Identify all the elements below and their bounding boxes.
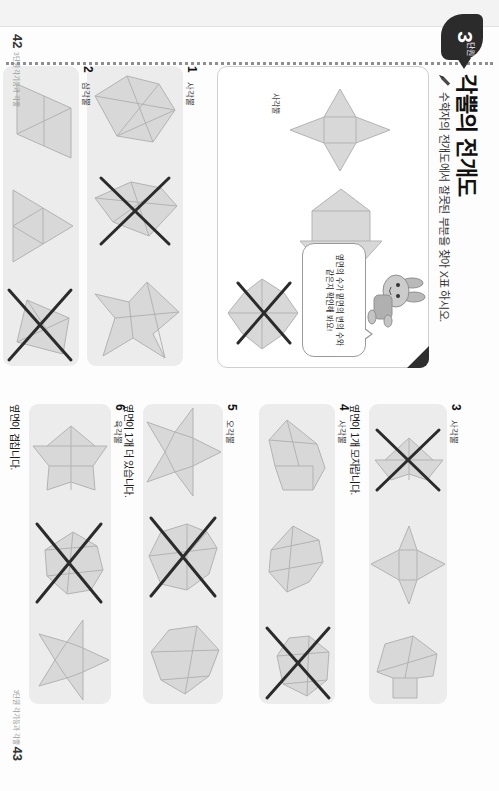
problem-1-label: 사각뿔 [185, 82, 197, 106]
problem-6-net-c [39, 620, 109, 700]
problem-4-strip [259, 404, 335, 704]
problem-4-net-b [269, 526, 323, 592]
problem-1-net-b [95, 178, 177, 244]
example-box: 사각뿔 옆면이 1개 모자랍니다. [217, 66, 429, 368]
problem-5-net-a [147, 408, 221, 496]
problem-5-net-c [151, 626, 219, 694]
problem-5-label: 오각뿔 [225, 420, 237, 444]
page-number-right: 43 [10, 747, 25, 761]
speech-bubble-text: 옆면의 수가 밑면의 변의 수와 같은지 확인해 봐요! [308, 251, 360, 349]
problem-6-strip [29, 404, 111, 704]
problem-3-net-a [375, 430, 443, 490]
problem-1-number: 1 [185, 66, 199, 73]
problem-5-strip [143, 404, 223, 704]
problem-1-strip [87, 66, 183, 366]
screenshot-canvas: 3 단원 각뿔의 전개도 수학자의 전개도에서 잘못된 부분을 찾아 X표 하시… [0, 0, 499, 791]
problem-6-note: 옆면이 겹칩니다. [8, 404, 23, 470]
problem-2-net-b [13, 190, 73, 262]
problem-3-number: 3 [449, 404, 463, 411]
bunny-character-icon [366, 263, 422, 333]
speech-bubble: 옆면의 수가 밑면의 변의 수와 같은지 확인해 봐요! [302, 243, 366, 357]
problem-3-label: 사각뿔 [449, 420, 461, 444]
dog-ear-corner [407, 346, 429, 368]
example-caption-left: 사각뿔 [271, 93, 282, 114]
page-spine [0, 0, 499, 27]
problem-2-net-a [17, 84, 71, 158]
example-net-star [288, 87, 392, 173]
problem-2-number: 2 [81, 66, 95, 73]
problem-1-net-c [95, 282, 179, 358]
problem-5-net-b [149, 518, 217, 596]
header-dotted-divider [6, 62, 493, 65]
page-caption-left: 3단원 각기둥과 각뿔 [12, 52, 22, 107]
problem-4-label: 사각뿔 [337, 420, 349, 444]
problem-5-number: 5 [225, 404, 239, 411]
pencil-icon [439, 74, 452, 87]
page-caption-right: 3단원 각기둥과 각뿔 [12, 690, 22, 745]
unit-badge: 3 단원 [441, 14, 483, 60]
workbook-page: 3 단원 각뿔의 전개도 수학자의 전개도에서 잘못된 부분을 찾아 X표 하시… [0, 0, 499, 791]
page-title: 각뿔의 전개도 [453, 74, 485, 197]
unit-word: 단원 [466, 42, 474, 56]
problem-3-net-b [371, 526, 445, 604]
problem-4-net-c [267, 628, 329, 698]
problem-6-net-a [33, 426, 107, 490]
problem-3-note: 옆면이 1개 모자랍니다. [348, 404, 363, 495]
example-net-marked [226, 275, 300, 353]
problem-6-label: 육각뿔 [113, 420, 125, 444]
problem-2-label: 삼각뿔 [81, 82, 93, 106]
page-sheet: 3 단원 각뿔의 전개도 수학자의 전개도에서 잘못된 부분을 찾아 X표 하시… [0, 0, 499, 791]
problem-2-net-c [9, 290, 71, 360]
problem-5-note: 옆면이 1개 더 있습니다. [122, 404, 137, 497]
problem-4-net-a [269, 420, 325, 490]
problem-2-strip [3, 66, 79, 366]
instruction-line: 수학자의 전개도에서 잘못된 부분을 찾아 X표 하시오. [437, 74, 453, 322]
page-number-left: 42 [10, 34, 25, 48]
problem-3-net-c [377, 636, 437, 698]
instruction-text: 수학자의 전개도에서 잘못된 부분을 찾아 X표 하시오. [437, 92, 453, 322]
problem-6-net-b [37, 524, 103, 602]
problem-1-net-a [95, 76, 175, 142]
problem-3-strip [369, 404, 447, 704]
problem-4-number: 4 [337, 404, 351, 411]
problem-6-number: 6 [113, 404, 127, 411]
